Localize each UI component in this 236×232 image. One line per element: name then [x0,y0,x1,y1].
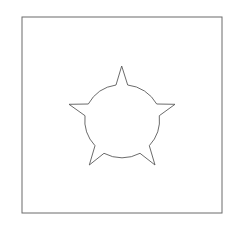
diagram-canvas [0,0,236,232]
